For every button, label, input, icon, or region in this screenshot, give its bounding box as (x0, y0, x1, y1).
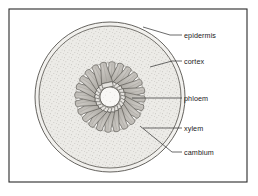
label-phloem: phloem (184, 94, 208, 103)
label-cortex: cortex (184, 57, 204, 66)
stem-body (35, 22, 185, 172)
diagram-canvas: epidermiscortexphloemxylemcambium (0, 0, 258, 196)
label-cambium: cambium (184, 148, 214, 157)
label-xylem: xylem (184, 124, 203, 133)
stem-cross-section-figure: epidermiscortexphloemxylemcambium (0, 0, 258, 196)
label-epidermis: epidermis (184, 31, 216, 40)
